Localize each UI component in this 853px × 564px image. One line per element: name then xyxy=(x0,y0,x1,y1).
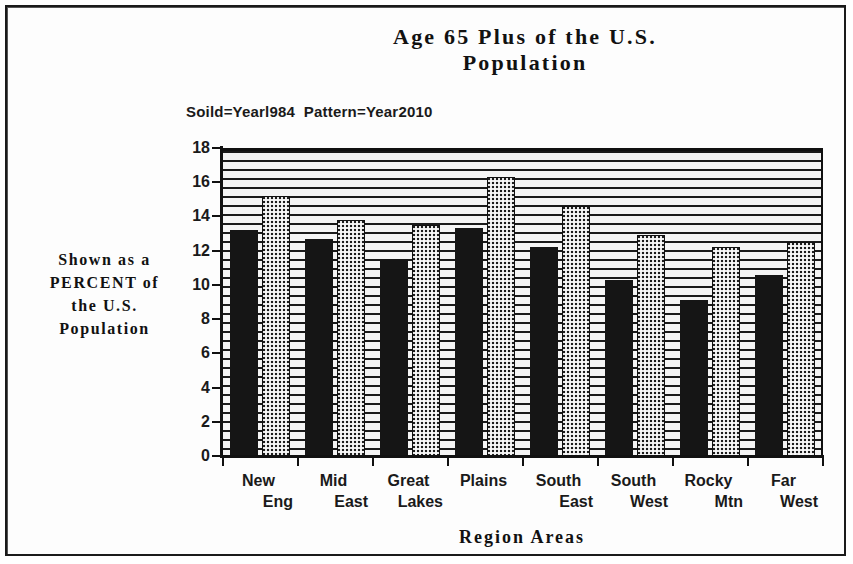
x-axis-tick xyxy=(372,455,374,466)
x-axis-tick xyxy=(597,455,599,466)
y-axis-caption-line-3: the U.S. xyxy=(22,294,187,317)
y-axis-tick xyxy=(212,455,222,457)
x-axis-category-south-east: SouthEast xyxy=(524,470,593,512)
x-axis-tick xyxy=(447,455,449,466)
chart-legend: Soild=Yearl984 Pattern=Year2010 xyxy=(186,103,433,120)
x-axis-category-far-west: FarWest xyxy=(749,470,818,512)
x-category-line-2 xyxy=(449,491,518,512)
x-category-line-1: Great xyxy=(374,470,443,491)
y-axis-tick-label: 0 xyxy=(172,447,210,465)
y-axis-tick-label: 10 xyxy=(172,276,210,294)
y-axis-tick xyxy=(212,215,222,217)
y-axis-tick-label: 8 xyxy=(172,310,210,328)
y-axis-tick xyxy=(212,181,222,183)
x-category-line-1: Far xyxy=(749,470,818,491)
y-axis-tick xyxy=(212,352,222,354)
y-axis-labels: 024681012141618 xyxy=(168,0,210,564)
x-axis-category-mid-east: MidEast xyxy=(299,470,368,512)
y-axis-tick-label: 12 xyxy=(172,242,210,260)
chart-title-line-1: Age 65 Plus of the U.S. xyxy=(393,24,657,49)
x-category-line-2: Eng xyxy=(224,491,293,512)
x-category-line-2: West xyxy=(599,491,668,512)
x-category-line-1: South xyxy=(524,470,593,491)
bar-solid-plains xyxy=(455,228,483,456)
y-axis-tick xyxy=(212,250,222,252)
chart-title-line-2: Population xyxy=(230,50,820,76)
chart-screenshot: Age 65 Plus of the U.S. Population Soild… xyxy=(0,0,853,564)
bars-layer xyxy=(222,148,822,456)
x-axis-tick xyxy=(522,455,524,466)
y-axis-caption-line-4: Population xyxy=(22,317,187,340)
x-axis-tick xyxy=(822,455,824,466)
bar-solid-great-lakes xyxy=(380,259,408,456)
y-axis-caption: Shown as a PERCENT of the U.S. Populatio… xyxy=(22,248,187,340)
y-axis-line xyxy=(220,146,223,458)
x-axis-title: Region Areas xyxy=(222,527,822,548)
bar-solid-rocky-mtn xyxy=(680,300,708,456)
y-axis-tick xyxy=(212,284,222,286)
bar-pattern-far-west xyxy=(787,242,815,456)
bar-solid-south-west xyxy=(605,280,633,456)
x-category-line-1: Plains xyxy=(449,470,518,491)
x-axis-tick xyxy=(297,455,299,466)
x-category-line-1: South xyxy=(599,470,668,491)
y-axis-caption-line-2: PERCENT of xyxy=(22,271,187,294)
y-axis-tick xyxy=(212,147,222,149)
x-category-line-1: Rocky xyxy=(674,470,743,491)
x-axis-category-rocky-mtn: RockyMtn xyxy=(674,470,743,512)
bar-solid-mid-east xyxy=(305,239,333,456)
bar-solid-new-eng xyxy=(230,230,258,456)
bar-pattern-rocky-mtn xyxy=(712,247,740,456)
x-category-line-2: West xyxy=(749,491,818,512)
x-axis-line xyxy=(220,455,822,458)
y-axis-tick-label: 14 xyxy=(172,207,210,225)
x-axis-tick xyxy=(747,455,749,466)
y-axis-tick-label: 16 xyxy=(172,173,210,191)
bar-pattern-south-west xyxy=(637,235,665,456)
bar-pattern-new-eng xyxy=(262,196,290,456)
x-axis-category-new-eng: NewEng xyxy=(224,470,293,512)
x-axis-category-plains: Plains xyxy=(449,470,518,512)
bar-pattern-plains xyxy=(487,177,515,456)
y-axis-caption-line-1: Shown as a xyxy=(22,248,187,271)
y-axis-tick-label: 6 xyxy=(172,344,210,362)
y-axis-tick-label: 18 xyxy=(172,139,210,157)
x-axis-tick xyxy=(672,455,674,466)
x-category-line-2: Lakes xyxy=(374,491,443,512)
bar-solid-south-east xyxy=(530,247,558,456)
y-axis-tick xyxy=(212,387,222,389)
x-category-line-1: Mid xyxy=(299,470,368,491)
bar-solid-far-west xyxy=(755,275,783,456)
x-axis-category-great-lakes: GreatLakes xyxy=(374,470,443,512)
x-category-line-2: East xyxy=(524,491,593,512)
y-axis-tick-label: 2 xyxy=(172,413,210,431)
x-category-line-2: East xyxy=(299,491,368,512)
x-axis-category-south-west: SouthWest xyxy=(599,470,668,512)
y-axis-tick-label: 4 xyxy=(172,379,210,397)
bar-pattern-mid-east xyxy=(337,220,365,456)
y-axis-tick xyxy=(212,421,222,423)
plot-area xyxy=(222,148,822,456)
bar-pattern-great-lakes xyxy=(412,225,440,456)
bar-pattern-south-east xyxy=(562,206,590,456)
x-category-line-2: Mtn xyxy=(674,491,743,512)
x-category-line-1: New xyxy=(224,470,293,491)
y-axis-tick xyxy=(212,318,222,320)
x-axis-tick xyxy=(222,455,224,466)
chart-title: Age 65 Plus of the U.S. Population xyxy=(230,24,820,76)
